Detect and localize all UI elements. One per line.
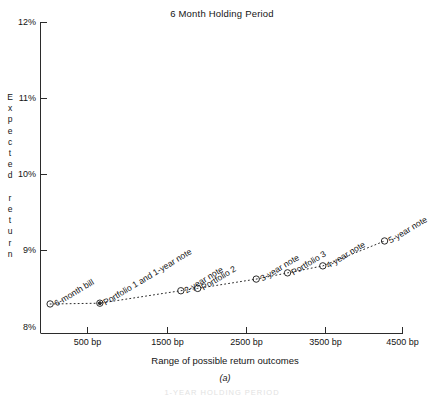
x-tick-marks bbox=[88, 327, 403, 334]
x-axis-title: Range of possible return outcomes bbox=[40, 355, 410, 366]
bleed-through-caption: 1-YEAR HOLDING PERIOD bbox=[0, 388, 444, 397]
x-tick-label-3500: 3500 bp bbox=[291, 337, 361, 347]
y-tick-label-12: 12% bbox=[2, 17, 36, 27]
x-tick-label-500: 500 bp bbox=[53, 337, 123, 347]
y-tick-label-9: 9% bbox=[2, 245, 36, 255]
figure-panel-a: 6 Month Holding Period Expected return 1… bbox=[0, 0, 444, 397]
panel-label: (a) bbox=[40, 373, 410, 383]
y-tick-marks bbox=[41, 23, 48, 251]
y-tick-label-11: 11% bbox=[2, 93, 36, 103]
y-tick-label-8: 8% bbox=[2, 322, 36, 332]
x-tick-label-2500: 2500 bp bbox=[212, 337, 282, 347]
data-point-marker-overlap bbox=[98, 302, 101, 305]
x-tick-label-1500: 1500 bp bbox=[133, 337, 203, 347]
x-tick-label-4500: 4500 bp bbox=[368, 337, 438, 347]
y-tick-label-10: 10% bbox=[2, 169, 36, 179]
